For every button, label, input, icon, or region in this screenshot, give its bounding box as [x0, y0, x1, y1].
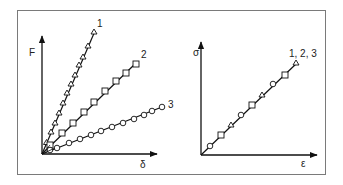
left-panel: F δ 1 [29, 18, 174, 170]
sigma-axis-label: σ [193, 47, 200, 58]
combined-series [201, 60, 299, 155]
diagram-canvas: F δ 1 [0, 0, 343, 185]
series-2-label: 2 [141, 49, 147, 60]
series-2-squares [42, 61, 139, 154]
series-1-label: 1 [97, 18, 103, 29]
series-3-label: 3 [168, 99, 174, 110]
delta-axis-label: δ [140, 159, 146, 170]
epsilon-axis-label: ε [301, 158, 306, 169]
series-combined-label: 1, 2, 3 [289, 48, 317, 59]
f-axis-label: F [29, 47, 35, 58]
right-panel: σ ε 1, 2, 3 [193, 42, 317, 169]
